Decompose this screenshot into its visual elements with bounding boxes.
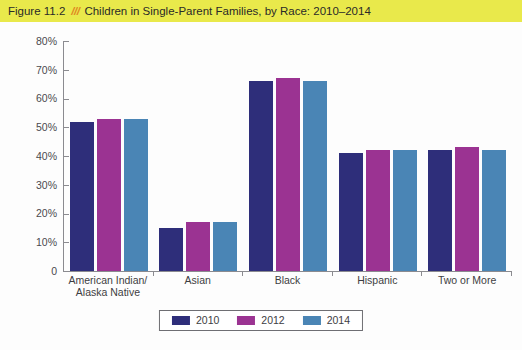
bar-group bbox=[333, 41, 423, 271]
bar-fill bbox=[366, 150, 390, 271]
bar-fill bbox=[303, 81, 327, 271]
bar-group bbox=[243, 41, 333, 271]
bar-fill bbox=[482, 150, 506, 271]
bar-2014 bbox=[124, 119, 148, 271]
bar-group bbox=[64, 41, 154, 271]
bar-fill bbox=[186, 222, 210, 271]
bar-2010 bbox=[428, 150, 452, 271]
bar-fill bbox=[249, 81, 273, 271]
legend-swatch-icon bbox=[172, 316, 190, 325]
bar-fill bbox=[428, 150, 452, 271]
bar-fill bbox=[97, 119, 121, 271]
x-axis-label: Two or More bbox=[422, 274, 512, 298]
bars-layer bbox=[64, 41, 512, 271]
legend-swatch-icon bbox=[237, 316, 255, 325]
y-axis-tick-label: 60% bbox=[36, 93, 64, 104]
y-axis-tick-label: 30% bbox=[36, 180, 64, 191]
bar-2012 bbox=[186, 222, 210, 271]
bar-fill bbox=[455, 147, 479, 271]
x-axis-label-line2: Alaska Native bbox=[63, 286, 153, 298]
figure-title: Children in Single-Parent Families, by R… bbox=[84, 5, 370, 17]
bar-2012 bbox=[276, 78, 300, 271]
bar-fill bbox=[213, 222, 237, 271]
legend-label: 2012 bbox=[261, 315, 284, 326]
figure-title-banner: Figure 11.2 /// Children in Single-Paren… bbox=[0, 0, 522, 22]
bar-2010 bbox=[339, 153, 363, 271]
bar-2014 bbox=[393, 150, 417, 271]
x-axis-label-line1: Two or More bbox=[438, 274, 496, 286]
plot-area: 80%70%60%50%40%30%20%10%0 bbox=[63, 41, 512, 272]
figure-number: Figure 11.2 bbox=[8, 5, 65, 17]
y-axis-tick-label: 10% bbox=[36, 237, 64, 248]
bar-2010 bbox=[70, 122, 94, 272]
x-axis-label-line1: Black bbox=[275, 274, 301, 286]
y-axis-tick-label: 80% bbox=[36, 36, 64, 47]
bar-group bbox=[154, 41, 244, 271]
y-axis-tick-label: 50% bbox=[36, 122, 64, 133]
bar-2014 bbox=[303, 81, 327, 271]
x-axis-label: Asian bbox=[153, 274, 243, 298]
x-axis-label: Hispanic bbox=[332, 274, 422, 298]
legend-label: 2010 bbox=[196, 315, 219, 326]
x-axis-label-line1: Hispanic bbox=[357, 274, 397, 286]
bar-fill bbox=[159, 228, 183, 271]
legend-item-2010: 2010 bbox=[172, 315, 219, 326]
legend-label: 2014 bbox=[327, 315, 350, 326]
y-axis-tick-label: 70% bbox=[36, 65, 64, 76]
bar-fill bbox=[393, 150, 417, 271]
legend-swatch-icon bbox=[303, 316, 321, 325]
legend-item-2014: 2014 bbox=[303, 315, 350, 326]
bar-2014 bbox=[482, 150, 506, 271]
bar-fill bbox=[276, 78, 300, 271]
y-axis-tick-mark bbox=[64, 271, 69, 272]
bar-fill bbox=[70, 122, 94, 272]
x-axis-label-line1: American Indian/ bbox=[69, 274, 148, 286]
bar-2012 bbox=[366, 150, 390, 271]
x-axis-label: American Indian/Alaska Native bbox=[63, 274, 153, 298]
bar-2010 bbox=[249, 81, 273, 271]
bar-2010 bbox=[159, 228, 183, 271]
bar-2014 bbox=[213, 222, 237, 271]
x-axis-label: Black bbox=[243, 274, 333, 298]
bar-fill bbox=[124, 119, 148, 271]
x-axis-labels: American Indian/Alaska NativeAsianBlackH… bbox=[63, 274, 512, 298]
y-axis-tick-label: 40% bbox=[36, 151, 64, 162]
bar-2012 bbox=[455, 147, 479, 271]
chart-container: 80%70%60%50%40%30%20%10%0 American India… bbox=[0, 22, 522, 350]
slash-separator-icon: /// bbox=[71, 5, 79, 17]
legend-item-2012: 2012 bbox=[237, 315, 284, 326]
chart-legend: 201020122014 bbox=[159, 310, 363, 331]
bar-2012 bbox=[97, 119, 121, 271]
x-axis-label-line1: Asian bbox=[185, 274, 211, 286]
bar-group bbox=[422, 41, 512, 271]
bar-fill bbox=[339, 153, 363, 271]
y-axis-tick-label: 20% bbox=[36, 208, 64, 219]
